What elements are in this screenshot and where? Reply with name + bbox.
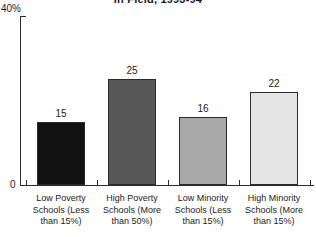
bar-chart: in Field, 1993-94 40% 0 15251622 Low Pov… bbox=[0, 0, 316, 237]
bar-1 bbox=[37, 122, 85, 185]
category-label-line: than 50%) bbox=[97, 216, 168, 228]
bar-4 bbox=[250, 92, 298, 185]
category-label-line: Low Minority bbox=[168, 193, 239, 205]
category-label-line: High Minority bbox=[239, 193, 310, 205]
bar-value-label-4: 22 bbox=[250, 78, 298, 89]
category-label-line: Schools (Less bbox=[26, 205, 97, 217]
category-label-line: than 15%) bbox=[168, 216, 239, 228]
y-axis-max-label: 40% bbox=[1, 3, 21, 14]
bar-3 bbox=[179, 117, 227, 185]
bar-value-label-3: 16 bbox=[179, 103, 227, 114]
category-label-line: Low Poverty bbox=[26, 193, 97, 205]
x-axis-tick bbox=[310, 180, 311, 186]
chart-title: in Field, 1993-94 bbox=[0, 0, 316, 5]
category-label-line: than 15%) bbox=[26, 216, 97, 228]
category-label-4: High MinoritySchools (Morethan 15%) bbox=[239, 193, 310, 228]
x-axis-line bbox=[20, 185, 314, 186]
x-axis-tick bbox=[168, 180, 169, 186]
category-label-3: Low MinoritySchools (Lessthan 15%) bbox=[168, 193, 239, 228]
category-label-line: Schools (More bbox=[239, 205, 310, 217]
x-axis-tick bbox=[97, 180, 98, 186]
x-axis-tick bbox=[239, 180, 240, 186]
category-label-line: High Poverty bbox=[97, 193, 168, 205]
x-axis-tick bbox=[26, 180, 27, 186]
y-axis-min-label: 0 bbox=[10, 179, 16, 190]
category-label-line: Schools (Less bbox=[168, 205, 239, 217]
category-label-1: Low PovertySchools (Lessthan 15%) bbox=[26, 193, 97, 228]
category-label-2: High PovertySchools (Morethan 50%) bbox=[97, 193, 168, 228]
bar-value-label-1: 15 bbox=[37, 108, 85, 119]
category-label-line: Schools (More bbox=[97, 205, 168, 217]
category-label-line: than 15%) bbox=[239, 216, 310, 228]
bar-2 bbox=[108, 79, 156, 185]
bar-value-label-2: 25 bbox=[108, 65, 156, 76]
